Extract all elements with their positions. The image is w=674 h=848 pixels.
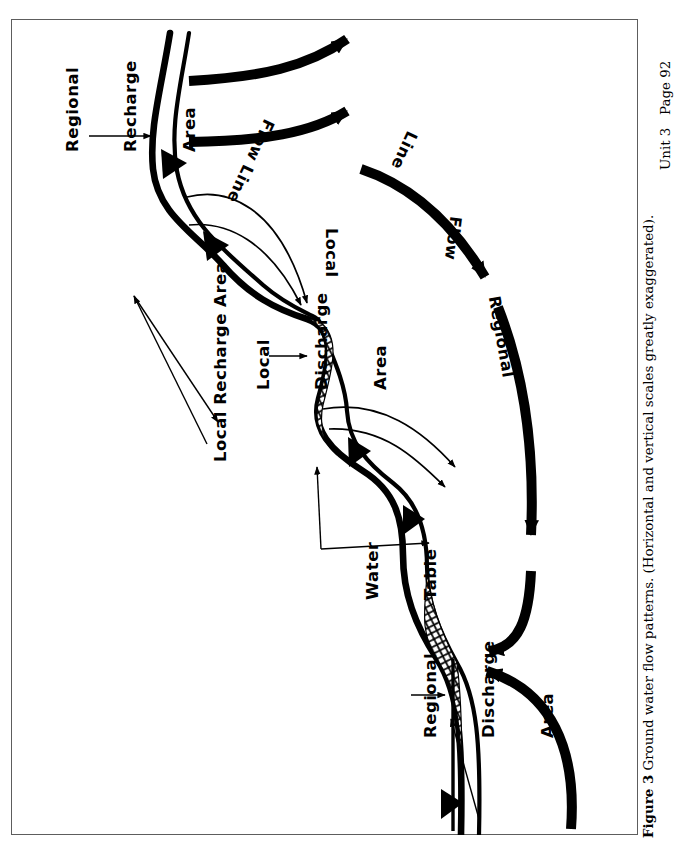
label-regional-recharge-area: Regional Recharge Area xyxy=(24,60,238,152)
label-line: Local xyxy=(321,228,340,277)
label-line: Recharge xyxy=(121,60,140,152)
label-regional-discharge-area: Regional Discharge Area xyxy=(382,641,596,738)
figure-caption-body: Ground water flow patterns. (Horizontal … xyxy=(641,215,656,775)
label-water-table: Water Table xyxy=(324,542,480,600)
label-local-flow-line-word1: Local xyxy=(284,228,378,277)
label-line: Area xyxy=(371,293,390,390)
label-line: Line xyxy=(387,128,421,172)
label-line: Regional xyxy=(421,641,440,738)
label-line: Regional xyxy=(484,295,517,380)
label-line: Discharge xyxy=(312,293,331,390)
label-line: Discharge xyxy=(479,641,498,738)
label-regional-flow-line-word1: Regional xyxy=(447,288,554,386)
page-header-text: Unit 3 Page 92 xyxy=(658,61,673,170)
label-line: Regional xyxy=(63,60,82,152)
label-line: Area xyxy=(180,60,199,152)
label-line: Local xyxy=(254,293,273,390)
figure-caption-text: Figure 3 Ground water flow patterns. (Ho… xyxy=(640,215,656,838)
label-line: Table xyxy=(421,542,440,600)
figure-caption: Figure 3 Ground water flow patterns. (Ho… xyxy=(640,18,660,838)
label-local-discharge-area: Local Discharge Area xyxy=(215,293,429,390)
figure-caption-number: Figure 3 xyxy=(640,775,656,838)
label-line: Water xyxy=(363,542,382,600)
label-line: Flow Line xyxy=(223,116,278,206)
label-line: Area xyxy=(538,641,557,738)
label-line: Flow xyxy=(440,215,464,261)
